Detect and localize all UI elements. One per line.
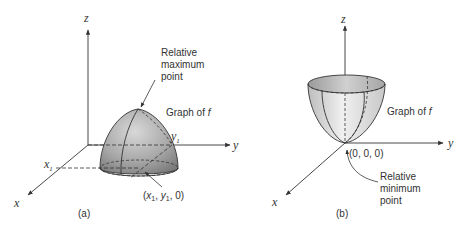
caption-a: (a) [78, 208, 90, 219]
y-axis-label: y [447, 136, 454, 150]
relative-maximum-label: Relative maximum point [161, 47, 207, 82]
x-axis-label: x [13, 196, 20, 210]
panel-a: z y x x1 y1 Relative maximum point Graph… [13, 11, 239, 219]
graph-of-f-label-a: Graph of f [166, 107, 212, 118]
figure: z y x x1 y1 Relative maximum point Graph… [0, 0, 461, 237]
caption-b: (b) [336, 208, 348, 219]
x-axis-label: x [271, 195, 278, 209]
x-axis [28, 145, 88, 195]
point-label-b: (0, 0, 0) [349, 148, 383, 159]
z-axis-label: z [83, 11, 89, 25]
panel-b: z y x Graph of f (0, 0, 0) Relative mini… [271, 12, 454, 219]
y1-tick-label: y1 [170, 129, 180, 145]
bowl-rim [308, 75, 385, 93]
point-label-a: (x1, y1, 0) [143, 190, 184, 202]
x-axis [286, 143, 345, 195]
z-axis-label: z [340, 12, 346, 26]
y-axis-label: y [232, 138, 239, 152]
dome-surface [100, 109, 178, 174]
x1-tick-label: x1 [43, 157, 53, 173]
graph-of-f-label-b: Graph of f [387, 106, 433, 117]
relative-minimum-label: Relative minimum point [380, 171, 423, 206]
